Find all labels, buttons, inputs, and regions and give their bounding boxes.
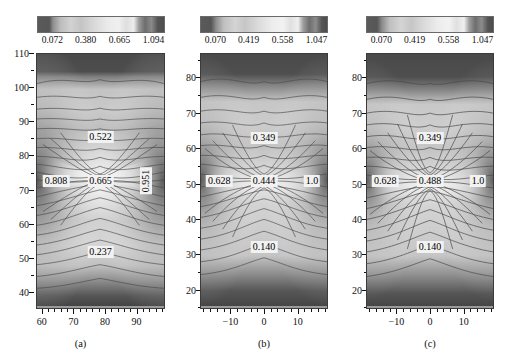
- colorbar-a-tick-1: 0.380: [75, 35, 96, 45]
- x-tick-minor: [156, 309, 157, 312]
- panel-c-ytick-label: 70: [352, 107, 362, 118]
- x-tick-minor: [67, 309, 68, 312]
- y-tick-minor: [31, 173, 34, 174]
- panel-b-ytick-label: 60: [186, 143, 196, 154]
- y-tick-minor: [31, 70, 34, 71]
- panel-a-contour-label-0951: 0.951: [140, 168, 152, 195]
- x-tick-minor: [257, 309, 258, 312]
- panel-c-contour-label-10: 1.0: [470, 175, 487, 187]
- x-tick-minor: [325, 309, 326, 312]
- x-tick-minor: [390, 309, 391, 312]
- colorbar-b-tick-0: 0.070: [205, 35, 226, 45]
- panel-a-xtick-label: 80: [100, 316, 110, 327]
- panel-b-ytick-label: 70: [186, 107, 196, 118]
- colorbar-b-tick-1: 0.419: [238, 35, 259, 45]
- y-tick: [29, 190, 34, 191]
- panel-b-xtick-label: 0: [262, 316, 267, 327]
- panel-c-x-axis: −10 0 10: [366, 309, 494, 335]
- colorbar-c-tick-3: 1.047: [472, 35, 493, 45]
- colorbar-a-ticks: 0.072 0.380 0.665 1.094: [37, 35, 165, 49]
- panel-c-xtick-label: 10: [459, 316, 469, 327]
- panel-c-ytick-label: 80: [352, 72, 362, 83]
- panel-a-xtick-label: 70: [68, 316, 78, 327]
- panel-c-ytick-label: 40: [352, 213, 362, 224]
- panel-a-xtick-label: 90: [132, 316, 142, 327]
- x-tick-minor: [304, 309, 305, 312]
- x-tick-minor: [203, 309, 204, 312]
- y-tick-minor: [31, 207, 34, 208]
- panel-b-x-axis: −10 0 10: [200, 309, 328, 335]
- x-tick-minor: [130, 309, 131, 312]
- x-tick-minor: [383, 309, 384, 312]
- x-tick-minor: [99, 309, 100, 312]
- x-tick-minor: [224, 309, 225, 312]
- x-tick-minor: [80, 309, 81, 312]
- panel-a: 0.072 0.380 0.665 1.094 110 100 90 80 70…: [0, 0, 185, 360]
- panel-a-caption: (a): [16, 338, 145, 349]
- x-tick-minor: [477, 309, 478, 312]
- figure-three-contour-panels: 0.072 0.380 0.665 1.094 110 100 90 80 70…: [0, 0, 511, 360]
- panel-b-ytick-label: 30: [186, 249, 196, 260]
- panel-b: 0.070 0.419 0.558 1.047 80 70 60 50 40 3…: [183, 0, 343, 360]
- panel-a-contour-label-0808: 0.808: [43, 175, 70, 187]
- panel-a-plot: 0.522 0.808 0.665 0.951 0.237: [36, 53, 165, 309]
- colorbar-a: 0.072 0.380 0.665 1.094: [37, 16, 165, 49]
- x-tick-minor: [162, 309, 163, 312]
- panel-c-xtick-label: 0: [428, 316, 433, 327]
- panel-b-contour-label-0140: 0.140: [251, 241, 278, 253]
- x-tick-minor: [217, 309, 218, 312]
- panel-a-ytick-label: 40: [19, 286, 29, 297]
- panel-c-caption: (c): [366, 338, 494, 349]
- y-tick: [29, 121, 34, 122]
- y-tick: [29, 224, 34, 225]
- x-tick-minor: [271, 309, 272, 312]
- panel-c-ytick-label: 30: [352, 249, 362, 260]
- panel-c-plot: 0.349 0.628 0.488 1.0 0.140: [366, 53, 494, 309]
- x-tick-minor: [48, 309, 49, 312]
- x-tick-minor: [437, 309, 438, 312]
- colorbar-b: 0.070 0.419 0.558 1.047: [200, 16, 328, 49]
- panel-a-ytick-label: 70: [19, 184, 29, 195]
- colorbar-c-ticks: 0.070 0.419 0.558 1.047: [366, 35, 494, 49]
- panel-b-xtick-label: −10: [223, 316, 239, 327]
- x-tick-minor: [318, 309, 319, 312]
- colorbar-c-tick-0: 0.070: [371, 35, 392, 45]
- panel-a-ytick-label: 110: [14, 48, 29, 59]
- panel-c-xtick-label: −10: [389, 316, 405, 327]
- x-tick: [264, 309, 265, 314]
- x-tick: [298, 309, 299, 314]
- panel-c-ytick-label: 50: [352, 178, 362, 189]
- panel-c-contour-label-0488: 0.488: [417, 175, 444, 187]
- x-tick-minor: [251, 309, 252, 312]
- panel-b-y-axis: 80 70 60 50 40 30 20: [167, 53, 201, 309]
- y-tick: [29, 258, 34, 259]
- panel-a-ytick-label: 50: [19, 252, 29, 263]
- colorbar-b-tick-3: 1.047: [306, 35, 327, 45]
- panel-a-xtick-label: 60: [37, 316, 47, 327]
- y-tick: [29, 155, 34, 156]
- x-tick-minor: [111, 309, 112, 312]
- x-tick: [42, 309, 43, 314]
- panel-c-contour-label-0140: 0.140: [417, 241, 444, 253]
- x-tick-minor: [143, 309, 144, 312]
- x-tick-minor: [92, 309, 93, 312]
- panel-c-y-axis: 80 70 60 50 40 30 20: [333, 53, 367, 309]
- x-tick-minor: [369, 309, 370, 312]
- panel-b-ytick-label: 40: [186, 213, 196, 224]
- panel-b-ytick-label: 50: [186, 178, 196, 189]
- colorbar-a-gradient: [37, 16, 165, 33]
- panel-a-ytick-label: 60: [19, 218, 29, 229]
- panel-b-plot: 0.349 0.628 0.444 1.0 0.140: [200, 53, 328, 309]
- panel-c-ytick-label: 60: [352, 143, 362, 154]
- colorbar-c-gradient: [366, 16, 494, 33]
- x-tick-minor: [403, 309, 404, 312]
- panel-a-contour-label-0665: 0.665: [87, 175, 114, 187]
- panel-b-contour-label-0444: 0.444: [251, 175, 278, 187]
- x-tick-minor: [491, 309, 492, 312]
- x-tick-minor: [61, 309, 62, 312]
- x-tick-minor: [443, 309, 444, 312]
- x-tick-minor: [284, 309, 285, 312]
- x-tick-minor: [417, 309, 418, 312]
- panel-b-ytick-label: 80: [186, 72, 196, 83]
- panel-a-ytick-label: 80: [19, 150, 29, 161]
